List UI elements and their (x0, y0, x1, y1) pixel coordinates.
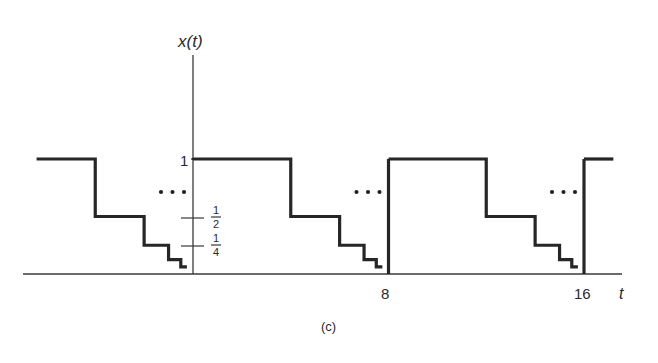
y-tick-label-quarter-numerator: 1 (213, 232, 219, 244)
ellipsis-dot (182, 190, 186, 194)
signal-period-2 (193, 159, 382, 267)
x-axis-label: t (619, 285, 624, 302)
ellipsis-dot (573, 190, 577, 194)
signal-period-3 (389, 159, 578, 267)
ellipsis-marks (159, 190, 577, 194)
ellipsis-dot (550, 190, 554, 194)
y-tick-label-quarter-denominator: 4 (213, 246, 219, 258)
ellipsis-dot (561, 190, 565, 194)
ellipsis-dot (159, 190, 163, 194)
y-axis-label: x(t) (177, 32, 203, 51)
y-tick-label-half-numerator: 1 (213, 204, 219, 216)
signal-waveform (37, 158, 614, 274)
signal-figure: x(t) 1 1 2 1 4 8 16 t (c) (0, 0, 658, 363)
y-tick-label-half-denominator: 2 (213, 218, 219, 230)
ellipsis-dot (354, 190, 358, 194)
x-tick-label-16: 16 (574, 285, 591, 302)
x-tick-label-8: 8 (381, 285, 389, 302)
y-tick-label-1: 1 (180, 152, 188, 169)
ellipsis-dot (366, 190, 370, 194)
ellipsis-dot (170, 190, 174, 194)
figure-caption: (c) (321, 319, 336, 334)
signal-period-1 (37, 159, 187, 267)
ellipsis-dot (377, 190, 381, 194)
